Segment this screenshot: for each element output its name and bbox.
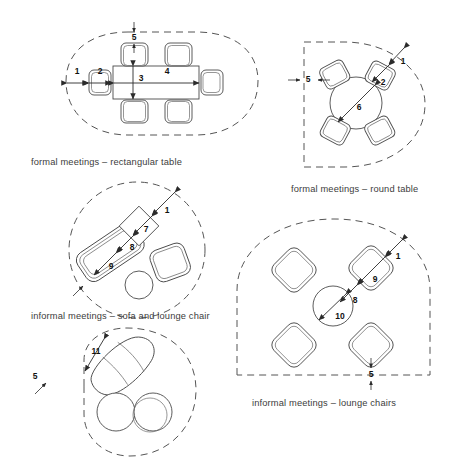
lounge-chair-right — [148, 241, 193, 284]
lounge-chair-top-right — [346, 243, 397, 294]
caption-formal-round: formal meetings – round table — [291, 184, 418, 194]
diagram-informal-lounge: 1 9 8 10 5 informal meetings – lounge ch… — [237, 219, 430, 408]
chair-bottom-left — [121, 100, 148, 123]
dimension-label-6: 6 — [357, 102, 362, 112]
dimension-line-clearance-sofa — [73, 286, 83, 296]
curved-sofa — [82, 326, 162, 404]
chair-bottom-right — [165, 100, 192, 123]
dimension-label-9-lounge: 9 — [373, 274, 378, 284]
caption-formal-rectangular: formal meetings – rectangular table — [31, 157, 182, 167]
lounge-chair-top-left — [269, 245, 320, 296]
diagram-informal-sofa: 1 7 8 9 informal meetings – sofa and lou… — [31, 182, 210, 321]
dimension-label-3: 3 — [139, 73, 144, 83]
round-coffee-table-sofa — [125, 271, 153, 299]
dimension-label-1-sofa: 1 — [165, 205, 170, 215]
rectangular-table — [113, 66, 199, 99]
dimension-line-1-sofa — [152, 192, 175, 215]
chair-top-right — [165, 43, 192, 66]
dimension-label-5: 5 — [132, 32, 137, 42]
dimension-label-5-round: 5 — [306, 74, 311, 84]
diagram-formal-round: 1 2 6 5 formal meetings – round table — [288, 42, 425, 194]
dimension-line-5-curved — [35, 383, 46, 394]
furniture-layout-figure: 1 2 4 3 5 formal meetings – rectangular … — [0, 0, 457, 466]
dimension-label-4: 4 — [165, 66, 170, 76]
plan-drawing: 1 2 4 3 5 formal meetings – rectangular … — [0, 0, 457, 466]
dimension-label-10: 10 — [335, 311, 345, 321]
diagram-formal-rectangular: 1 2 4 3 5 formal meetings – rectangular … — [31, 22, 258, 167]
dimension-label-8-sofa: 8 — [130, 242, 135, 252]
dimension-label-5-lounge: 5 — [369, 369, 374, 379]
dimension-label-11: 11 — [92, 346, 101, 356]
dimension-label-2: 2 — [98, 66, 103, 76]
round-table-curved-right — [133, 393, 172, 432]
caption-informal-lounge: informal meetings – lounge chairs — [252, 398, 396, 408]
chair-right-end — [201, 70, 223, 95]
dimension-label-9-sofa: 9 — [109, 261, 114, 271]
dimension-label-1-round: 1 — [401, 56, 406, 66]
lounge-chair-bottom-left — [269, 320, 320, 371]
round-table-curved-left — [97, 393, 135, 431]
chair-top-left — [121, 43, 148, 66]
dimension-label-5-curved: 5 — [33, 371, 38, 381]
diagram-informal-curved: 11 5 — [33, 326, 196, 456]
dimension-label-2-round: 2 — [381, 77, 386, 87]
dimension-label-8-lounge: 8 — [353, 295, 358, 305]
dimension-label-1: 1 — [75, 66, 80, 76]
dimension-label-1-lounge: 1 — [396, 251, 401, 261]
caption-informal-sofa: informal meetings – sofa and lounge chai… — [31, 311, 210, 321]
dimension-label-7: 7 — [144, 224, 149, 234]
